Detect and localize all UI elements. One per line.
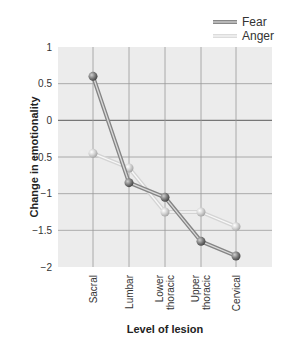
data-point — [89, 149, 98, 158]
x-axis-title: Level of lesion — [127, 323, 204, 335]
y-tick-label: −1 — [41, 188, 53, 199]
data-point — [89, 72, 98, 81]
x-tick-label: Lumbar — [124, 274, 135, 309]
x-tick-label: Upper — [190, 274, 201, 302]
legend-fear-label: Fear — [242, 15, 267, 29]
data-point — [125, 178, 134, 187]
data-point — [161, 208, 170, 217]
y-axis-title: Change in emotionality — [28, 96, 40, 218]
x-tick-labels: SacralLumbarLowerthoracicUpperthoracicCe… — [88, 274, 242, 311]
data-point — [232, 222, 241, 231]
x-tick-label: thoracic — [165, 275, 176, 310]
data-point — [161, 193, 170, 202]
data-point — [197, 237, 206, 246]
x-tick-label: Cervical — [231, 275, 242, 311]
chart: 10.50−0.5−1−1.5−2 SacralLumbarLowerthora… — [0, 0, 289, 344]
x-tick-label: Sacral — [88, 275, 99, 303]
legend-anger-label: Anger — [242, 29, 274, 43]
y-tick-label: 0.5 — [38, 78, 52, 89]
data-point — [197, 208, 206, 217]
y-tick-label: −2 — [41, 262, 53, 273]
x-tick-label: Lower — [154, 274, 165, 302]
y-tick-label: 1 — [46, 42, 52, 53]
data-point — [232, 252, 241, 261]
x-tick-label: thoracic — [201, 275, 212, 310]
y-tick-label: 0 — [46, 115, 52, 126]
legend: Fear Anger — [213, 15, 274, 43]
y-tick-label: −1.5 — [32, 225, 52, 236]
